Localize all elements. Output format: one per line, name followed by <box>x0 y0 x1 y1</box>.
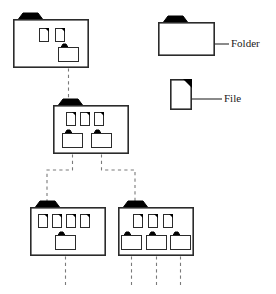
file-icon <box>40 28 50 42</box>
diagram-canvas: FolderFile <box>0 0 276 294</box>
folder-body <box>92 134 112 148</box>
level3-right-folder[interactable] <box>119 201 193 255</box>
file-icon <box>149 214 159 228</box>
file-body <box>53 215 62 228</box>
folder-body <box>171 236 191 250</box>
file-icon <box>134 214 144 228</box>
legend-folder-label: Folder <box>231 37 260 49</box>
file-body <box>164 215 173 228</box>
root-folder[interactable] <box>14 13 88 67</box>
file-body <box>81 215 90 228</box>
level3-left-folder[interactable] <box>31 201 105 255</box>
file-icon <box>171 79 192 109</box>
file-body <box>40 29 49 42</box>
level2-folder[interactable] <box>54 99 128 153</box>
file-icon <box>56 28 66 42</box>
file-body <box>67 113 76 126</box>
folder-body <box>59 48 79 62</box>
file-icon <box>81 214 91 228</box>
connector-mid-to-right <box>102 148 136 201</box>
file-body <box>81 113 90 126</box>
legend: FolderFile <box>159 16 260 109</box>
legend-file-item[interactable]: File <box>171 79 241 109</box>
file-icon <box>53 214 63 228</box>
file-body <box>56 29 65 42</box>
file-icon <box>164 214 174 228</box>
folder-body <box>159 23 214 55</box>
file-icon <box>67 112 77 126</box>
file-body <box>149 215 158 228</box>
folder-hierarchy-diagram: FolderFile <box>0 0 276 294</box>
file-icon <box>39 214 49 228</box>
file-icon <box>95 112 105 126</box>
file-body <box>95 113 104 126</box>
file-body <box>67 215 76 228</box>
folder-body <box>147 236 167 250</box>
legend-folder-item[interactable]: Folder <box>159 16 260 55</box>
file-icon <box>67 214 77 228</box>
folder-body <box>63 134 83 148</box>
folder-body <box>122 236 142 250</box>
file-body <box>171 80 191 109</box>
file-icon <box>81 112 91 126</box>
connector-mid-to-left <box>47 148 73 201</box>
file-body <box>39 215 48 228</box>
file-body <box>134 215 143 228</box>
folder-icon[interactable] <box>159 16 214 55</box>
folder-body <box>56 236 76 250</box>
legend-file-label: File <box>224 92 241 104</box>
